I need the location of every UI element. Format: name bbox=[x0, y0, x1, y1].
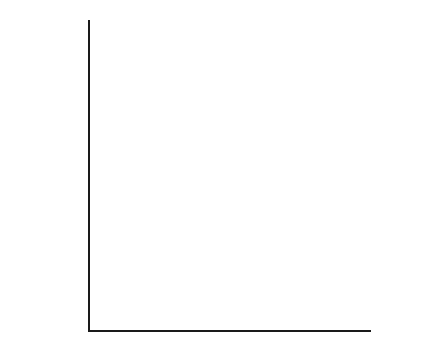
chart-canvas bbox=[0, 0, 421, 358]
